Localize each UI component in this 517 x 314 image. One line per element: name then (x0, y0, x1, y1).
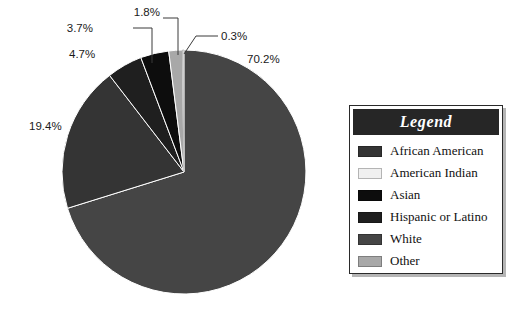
legend-item-african-american[interactable]: African American (358, 140, 502, 162)
legend-header: Legend (353, 109, 499, 135)
legend-item-other[interactable]: Other (358, 250, 502, 272)
pie-slices (62, 50, 306, 294)
legend-items: African American American Indian Asian H… (350, 135, 502, 272)
legend-label-hispanic-or-latino: Hispanic or Latino (390, 209, 487, 225)
legend-label-other: Other (390, 253, 420, 269)
chart-canvas: 70.2% 19.4% 4.7% 3.7% 1.8% 0.3% Legend A… (0, 0, 517, 314)
legend-swatch-african-american (358, 146, 382, 157)
legend-swatch-other (358, 256, 382, 267)
legend-item-american-indian[interactable]: American Indian (358, 162, 502, 184)
legend-swatch-american-indian (358, 168, 382, 179)
legend-swatch-white (358, 234, 382, 245)
legend-label-african-american: African American (390, 143, 483, 159)
legend: Legend African American American Indian … (349, 105, 503, 274)
label-american-indian: 0.3% (221, 30, 247, 42)
legend-label-american-indian: American Indian (390, 165, 478, 181)
leader-line-other (163, 18, 178, 55)
label-other: 1.8% (134, 6, 160, 18)
label-hispanic-or-latino: 4.7% (69, 48, 95, 60)
label-asian: 3.7% (67, 22, 93, 34)
legend-title: Legend (400, 113, 452, 131)
legend-item-white[interactable]: White (358, 228, 502, 250)
label-african-american: 19.4% (29, 120, 62, 132)
legend-item-asian[interactable]: Asian (358, 184, 502, 206)
legend-swatch-hispanic-or-latino (358, 212, 382, 223)
legend-swatch-asian (358, 190, 382, 201)
legend-label-white: White (390, 231, 422, 247)
legend-item-hispanic-or-latino[interactable]: Hispanic or Latino (358, 206, 502, 228)
label-white: 70.2% (247, 53, 280, 65)
legend-label-asian: Asian (390, 187, 420, 203)
